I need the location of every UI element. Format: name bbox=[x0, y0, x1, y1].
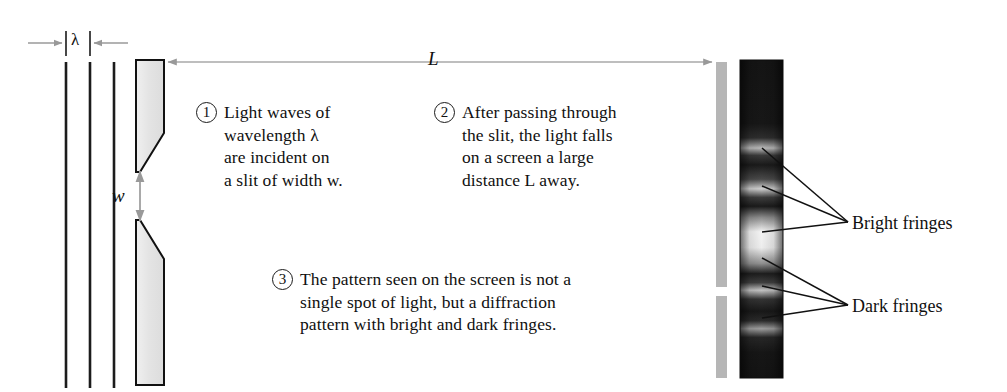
bright-fringes-label: Bright fringes bbox=[852, 213, 953, 233]
viewing-screen bbox=[716, 62, 727, 378]
callout-1-number: 1 bbox=[196, 102, 217, 123]
distance-label: L bbox=[428, 48, 439, 70]
slit-barrier bbox=[136, 60, 164, 385]
diffraction-photo bbox=[740, 60, 783, 378]
callout-3-number: 3 bbox=[272, 269, 293, 290]
callout-3: 3 The pattern seen on the screen is not … bbox=[272, 268, 571, 336]
slit-width-label: w bbox=[112, 185, 125, 207]
callout-3-text: The pattern seen on the screen is not a … bbox=[300, 268, 571, 336]
dark-fringes-label: Dark fringes bbox=[852, 296, 942, 316]
slit-block-upper bbox=[136, 60, 164, 172]
callout-2-number: 2 bbox=[434, 102, 455, 123]
slit-block-lower bbox=[136, 220, 164, 385]
callout-1: 1 Light waves of wavelength λ are incide… bbox=[196, 101, 343, 191]
callout-1-text: Light waves of wavelength λ are incident… bbox=[224, 101, 343, 191]
callout-2-text: After passing through the slit, the ligh… bbox=[462, 101, 617, 191]
wavelength-label: λ bbox=[71, 30, 79, 50]
callout-2: 2 After passing through the slit, the li… bbox=[434, 101, 617, 191]
diffraction-figure: λ L w 1 Light waves of wavelength λ are … bbox=[0, 0, 1007, 392]
wavefront-lines bbox=[66, 62, 114, 388]
